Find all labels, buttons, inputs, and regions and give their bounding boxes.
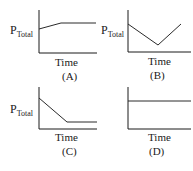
chart-c-ylabel: PTotal [10, 103, 33, 117]
chart-d [128, 87, 191, 129]
chart-a [39, 10, 97, 53]
chart-d-caption: (D) [149, 146, 164, 157]
chart-a-line [39, 23, 96, 29]
chart-b-line [128, 24, 181, 45]
chart-d-axes [128, 87, 191, 129]
chart-b [128, 10, 191, 52]
chart-b-xlabel: Time [148, 56, 171, 67]
chart-c [39, 87, 97, 129]
chart-a-xlabel: Time [55, 57, 78, 68]
chart-b-caption: (B) [150, 70, 165, 81]
chart-d-xlabel: Time [148, 132, 171, 143]
chart-c-axes [39, 87, 97, 129]
chart-c-xlabel: Time [55, 132, 78, 143]
chart-c-line [39, 98, 97, 122]
chart-a-axes [39, 10, 97, 53]
chart-b-ylabel: PTotal [101, 24, 124, 38]
chart-c-caption: (C) [62, 146, 77, 157]
chart-a-ylabel: PTotal [10, 24, 33, 38]
chart-a-caption: (A) [62, 71, 77, 82]
